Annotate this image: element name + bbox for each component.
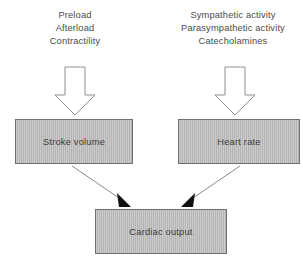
node-heart-rate-label: Heart rate xyxy=(217,137,260,147)
block-arrow-down-left-icon xyxy=(55,67,95,115)
connector-heart-rate-to-cardiac-output xyxy=(190,166,240,200)
block-arrow-down-right-icon xyxy=(215,67,255,115)
node-cardiac-output: Cardiac output xyxy=(95,209,227,254)
node-stroke-volume: Stroke volume xyxy=(15,119,133,164)
arrowhead-left-icon xyxy=(117,193,131,207)
node-heart-rate: Heart rate xyxy=(178,119,300,164)
cardiac-output-diagram: Preload Afterload Contractility Sympathe… xyxy=(0,0,303,261)
node-stroke-volume-label: Stroke volume xyxy=(43,137,105,147)
node-cardiac-output-label: Cardiac output xyxy=(129,227,192,237)
connector-stroke-volume-to-cardiac-output xyxy=(72,166,122,200)
arrowhead-right-icon xyxy=(181,193,195,207)
